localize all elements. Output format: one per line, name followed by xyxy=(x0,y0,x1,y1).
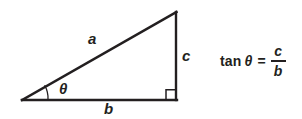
side-label-c: c xyxy=(182,48,190,63)
side-label-a: a xyxy=(88,31,96,46)
side-label-b: b xyxy=(104,101,113,116)
equation-fraction: c b xyxy=(271,44,286,78)
fraction-denominator: b xyxy=(271,64,286,78)
right-angle-marker-icon xyxy=(166,90,175,99)
equation-function-name: tan xyxy=(220,53,242,69)
angle-label-theta: θ xyxy=(59,81,67,96)
equation-equals-sign: = xyxy=(257,53,265,69)
fraction-numerator: c xyxy=(271,44,285,58)
figure-canvas: a b c θ tan θ = c b xyxy=(0,0,302,119)
angle-arc xyxy=(45,85,48,100)
fraction-bar xyxy=(271,60,286,62)
tangent-equation: tan θ = c b xyxy=(220,44,286,78)
equation-variable-theta: θ xyxy=(245,53,253,69)
